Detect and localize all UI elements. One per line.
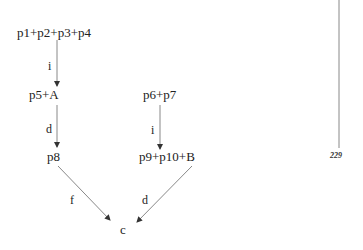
node-p6-p7: p6+p7: [143, 88, 176, 102]
edge-label-i-2: i: [151, 124, 154, 136]
node-p5-A: p5+A: [29, 88, 59, 102]
node-c: c: [120, 223, 126, 237]
page-number: 229: [330, 151, 342, 160]
node-p8: p8: [47, 150, 60, 164]
node-p9-p10-B: p9+p10+B: [139, 150, 195, 164]
edge-n3-n6: [58, 166, 110, 220]
edge-label-d-2: d: [142, 194, 148, 206]
edge-label-i-1: i: [48, 60, 51, 72]
edge-label-f: f: [70, 194, 74, 206]
node-p1-p4: p1+p2+p3+p4: [17, 26, 91, 40]
edge-label-d-1: d: [46, 123, 52, 135]
